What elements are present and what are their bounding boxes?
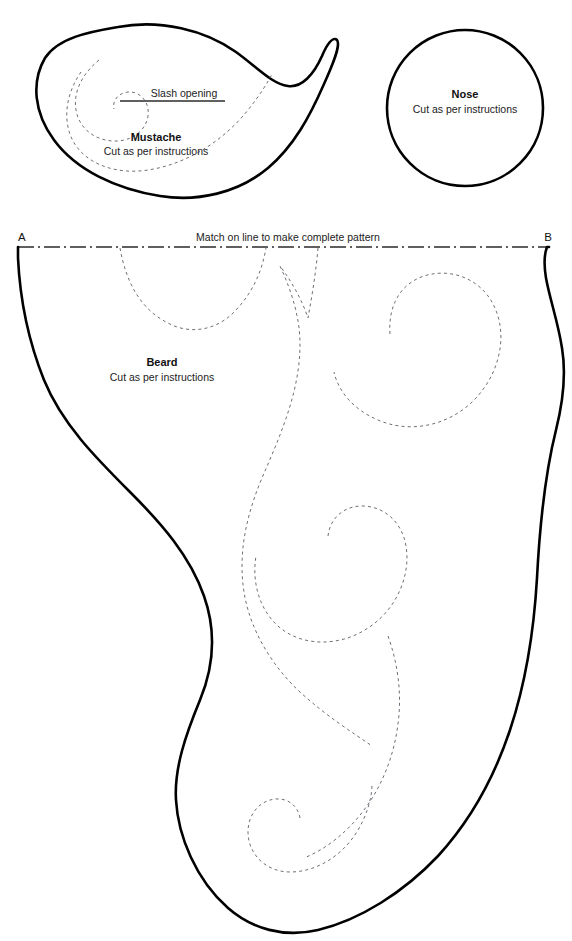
match-line-note: Match on line to make complete pattern [196, 231, 380, 243]
beard-stitch-left-arc [120, 248, 266, 330]
beard-stitch-center-spine [242, 248, 372, 746]
pattern-piece-beard: Beard Cut as per instructions [18, 247, 564, 933]
pattern-piece-nose: Nose Cut as per instructions [387, 30, 543, 186]
pattern-piece-mustache: Slash opening Mustache Cut as per instru… [36, 24, 338, 197]
beard-stitch-upper-right-curl [334, 273, 501, 427]
beard-instruction: Cut as per instructions [110, 371, 214, 383]
pattern-canvas: Slash opening Mustache Cut as per instru… [0, 0, 572, 941]
mustache-instruction: Cut as per instructions [104, 145, 208, 157]
beard-stitch-middle-curl [255, 506, 407, 642]
match-marker-a: A [18, 231, 26, 243]
beard-cut-outline [18, 247, 564, 933]
mustache-cut-outline [36, 24, 338, 197]
beard-title: Beard [146, 356, 177, 368]
nose-title: Nose [452, 88, 479, 100]
beard-stitch-right-contour [304, 636, 400, 858]
pattern-sheet: Slash opening Mustache Cut as per instru… [0, 0, 572, 941]
mustache-slash-label: Slash opening [151, 87, 218, 99]
beard-stitch-bottom-curl [248, 784, 372, 872]
nose-instruction: Cut as per instructions [413, 103, 517, 115]
match-line-group: A B Match on line to make complete patte… [18, 231, 552, 247]
match-marker-b: B [544, 231, 552, 243]
mustache-title: Mustache [131, 131, 182, 143]
